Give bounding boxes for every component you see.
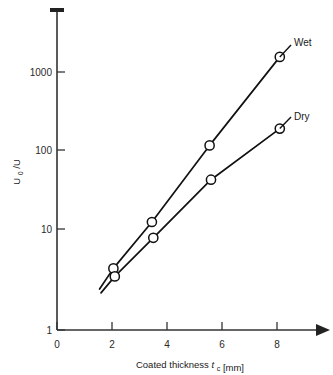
series-dry-point	[110, 272, 119, 281]
y-tick-label-1: 1	[46, 325, 52, 336]
x-axis-ticks: 0 2 4 6 8	[54, 322, 280, 350]
series-wet-point	[205, 141, 214, 150]
y-axis-title: U 0 /U	[11, 159, 25, 185]
y-tick-label-1000: 1000	[30, 67, 53, 78]
series-dry: Dry	[101, 111, 310, 293]
x-tick-label-8: 8	[274, 339, 280, 350]
series-wet-label: Wet	[294, 37, 312, 48]
x-axis-title-unit: [mm]	[223, 362, 244, 373]
x-axis-arrow-icon	[316, 324, 330, 336]
y-tick-label-100: 100	[35, 145, 52, 156]
x-tick-label-2: 2	[109, 339, 115, 350]
series-dry-point	[206, 175, 215, 184]
x-tick-label-4: 4	[164, 339, 170, 350]
series-dry-leader-line	[280, 117, 291, 129]
axis-titles: Coated thickness t c [mm] U 0 /U	[11, 159, 244, 373]
y-tick-label-10: 10	[41, 224, 53, 235]
series-dry-point	[149, 233, 158, 242]
y-axis-title-rest: /U	[11, 159, 22, 169]
log-line-chart-canvas: 1000 100 10 1 0 2 4 6 8 Coated thickness…	[0, 0, 333, 375]
x-tick-label-0: 0	[54, 339, 60, 350]
y-axis-ticks: 1000 100 10 1	[30, 67, 65, 336]
series-wet-leader-line	[280, 45, 291, 57]
series-wet-point	[147, 217, 156, 226]
y-axis-title-var: U	[11, 178, 22, 185]
x-axis-title: Coated thickness t c [mm]	[136, 359, 244, 373]
series-dry-line	[101, 129, 280, 293]
x-tick-label-6: 6	[219, 339, 225, 350]
x-axis-title-main: Coated thickness	[136, 359, 209, 370]
series-wet: Wet	[100, 37, 312, 289]
y-axis-title-sub: 0	[17, 171, 24, 175]
y-axis-arrow-cap	[50, 8, 64, 12]
x-axis-title-sub: c	[217, 365, 221, 372]
series-wet-line	[100, 57, 280, 289]
x-axis-title-var: t	[211, 359, 214, 370]
series-dry-label: Dry	[294, 111, 310, 122]
